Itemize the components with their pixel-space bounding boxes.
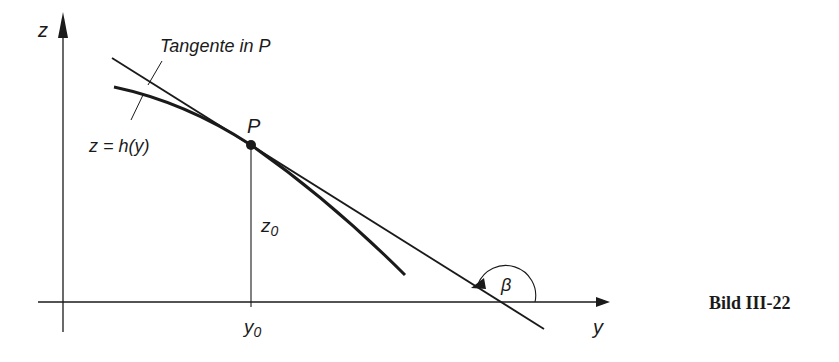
curve-leader — [131, 95, 143, 120]
curve-label: z = h(y) — [88, 136, 150, 156]
z-axis — [58, 12, 68, 332]
z-axis-arrow-icon — [58, 12, 68, 38]
angle-arrow-icon — [471, 278, 486, 289]
angle-beta-label: β — [500, 275, 511, 295]
z0-label: z0 — [260, 215, 279, 239]
z0-base: z — [260, 215, 271, 236]
y-axis-label: y — [591, 316, 604, 338]
y-axis-arrow-icon — [596, 297, 610, 307]
tangent-leader — [148, 61, 162, 85]
y0-subscript: 0 — [254, 324, 262, 340]
y0-label: y0 — [242, 316, 262, 340]
point-p-label: P — [247, 115, 261, 137]
tangent-diagram: z y P Tangente in P z = h(y) z0 y0 β Bil… — [0, 0, 839, 362]
y-axis — [38, 297, 610, 307]
tangent-label: Tangente in P — [160, 36, 270, 56]
figure-caption: Bild III-22 — [709, 293, 791, 313]
z-axis-label: z — [37, 19, 48, 41]
point-p — [246, 140, 256, 150]
z0-subscript: 0 — [271, 223, 279, 239]
